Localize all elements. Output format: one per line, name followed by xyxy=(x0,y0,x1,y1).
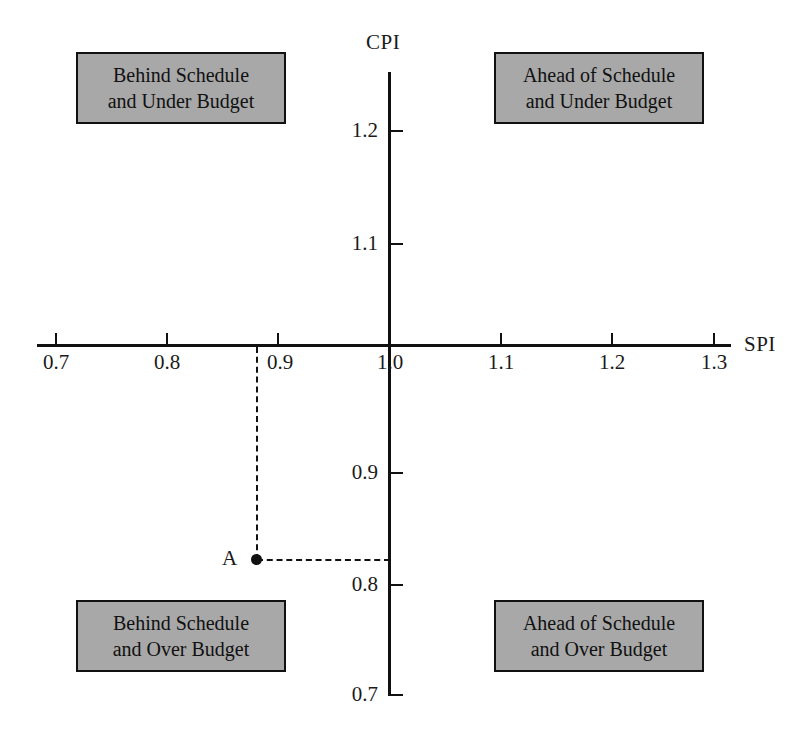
quadrant-label-line-2: and Over Budget xyxy=(113,636,250,662)
quadrant-label-ahead-over: Ahead of Schedule and Over Budget xyxy=(494,600,704,672)
x-tick-mark-6 xyxy=(713,333,715,345)
x-tick-mark-0 xyxy=(55,333,57,345)
y-tick-mark-1 xyxy=(390,243,403,245)
x-tick-mark-1 xyxy=(166,333,168,345)
x-tick-label-4: 1.1 xyxy=(471,349,531,375)
y-tick-mark-4 xyxy=(390,694,403,696)
y-tick-label-1: 1.1 xyxy=(316,230,378,256)
y-tick-mark-3 xyxy=(390,584,403,586)
quadrant-label-line-1: Behind Schedule xyxy=(113,610,249,636)
quadrant-label-line-2: and Under Budget xyxy=(108,88,255,114)
projection-line-vertical xyxy=(256,347,258,560)
quadrant-label-line-1: Behind Schedule xyxy=(113,62,249,88)
quadrant-label-behind-under: Behind Schedule and Under Budget xyxy=(76,52,286,124)
quadrant-label-behind-over: Behind Schedule and Over Budget xyxy=(76,600,286,672)
quadrant-label-line-1: Ahead of Schedule xyxy=(523,610,675,636)
x-tick-mark-2 xyxy=(277,333,279,345)
x-axis-line xyxy=(37,344,731,347)
y-axis-title: CPI xyxy=(366,30,400,54)
y-tick-mark-0 xyxy=(390,130,403,132)
y-tick-label-4: 0.7 xyxy=(316,681,378,707)
projection-line-horizontal xyxy=(257,559,390,561)
x-tick-label-5: 1.2 xyxy=(582,349,642,375)
y-axis-line xyxy=(388,72,391,696)
y-tick-label-2: 0.9 xyxy=(316,459,378,485)
x-tick-mark-3 xyxy=(389,333,391,345)
quadrant-label-line-2: and Over Budget xyxy=(531,636,668,662)
y-tick-label-0: 1.2 xyxy=(316,117,378,143)
y-tick-label-3: 0.8 xyxy=(316,571,378,597)
x-tick-label-0: 0.7 xyxy=(26,349,86,375)
data-point-marker-a xyxy=(251,554,262,565)
x-axis-title: SPI xyxy=(744,332,776,356)
x-tick-label-3: 1.0 xyxy=(360,349,420,375)
x-tick-mark-5 xyxy=(611,333,613,345)
quadrant-label-line-2: and Under Budget xyxy=(526,88,673,114)
x-tick-label-1: 0.8 xyxy=(137,349,197,375)
x-tick-label-2: 0.9 xyxy=(250,349,310,375)
y-tick-mark-2 xyxy=(390,472,403,474)
x-tick-label-6: 1.3 xyxy=(684,349,744,375)
data-point-label-a: A xyxy=(222,546,237,570)
cpi-spi-quadrant-chart: CPI SPI 0.7 0.8 0.9 1.0 1.1 1.2 1.3 1.2 … xyxy=(0,0,805,736)
quadrant-label-line-1: Ahead of Schedule xyxy=(523,62,675,88)
quadrant-label-ahead-under: Ahead of Schedule and Under Budget xyxy=(494,52,704,124)
x-tick-mark-4 xyxy=(500,333,502,345)
